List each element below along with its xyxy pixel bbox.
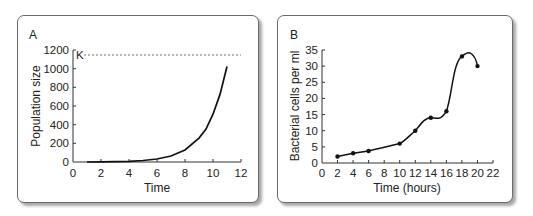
xtick-label: 12 xyxy=(409,167,422,179)
data-point xyxy=(335,154,339,158)
xtick-label: 20 xyxy=(471,167,484,179)
xtick-label: 4 xyxy=(350,167,357,179)
ytick-label: 25 xyxy=(305,76,318,88)
data-point xyxy=(351,151,355,155)
ytick-label: 15 xyxy=(305,109,318,121)
data-point xyxy=(460,54,464,58)
chart-b-ylabel: Bacterial cells per ml xyxy=(288,51,302,162)
ytick-label: 0 xyxy=(312,157,318,169)
ytick-label: 10 xyxy=(305,125,318,137)
chart-b-xticks: 0 2 4 6 8 10 12 14 16 18 20 22 xyxy=(319,167,500,179)
chart-b-svg: B 0 5 10 15 20 25 30 35 0 2 4 6 8 xyxy=(0,0,533,216)
data-point xyxy=(366,149,370,153)
xtick-label: 6 xyxy=(365,167,371,179)
ytick-label: 5 xyxy=(312,141,318,153)
xtick-label: 8 xyxy=(381,167,387,179)
xtick-label: 0 xyxy=(319,167,325,179)
data-point xyxy=(398,141,402,145)
chart-b-xlabel: Time (hours) xyxy=(373,181,441,195)
ytick-label: 35 xyxy=(305,44,318,56)
xtick-label: 2 xyxy=(334,167,340,179)
xtick-label: 10 xyxy=(393,167,406,179)
ytick-label: 30 xyxy=(305,60,318,72)
data-point xyxy=(444,109,448,113)
xtick-label: 16 xyxy=(440,167,453,179)
chart-b-axes xyxy=(322,50,493,163)
chart-b-curve xyxy=(338,53,478,157)
data-point xyxy=(475,64,479,68)
data-point xyxy=(429,116,433,120)
data-point xyxy=(413,129,417,133)
xtick-label: 14 xyxy=(424,167,437,179)
xtick-label: 22 xyxy=(487,167,500,179)
panel-b-label: B xyxy=(290,28,298,42)
xtick-label: 18 xyxy=(456,167,469,179)
chart-b-points xyxy=(335,54,479,159)
chart-b-yticks: 0 5 10 15 20 25 30 35 xyxy=(305,44,318,169)
ytick-label: 20 xyxy=(305,92,318,104)
